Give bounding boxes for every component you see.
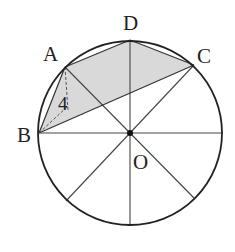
label-o: O bbox=[133, 150, 148, 174]
center-point-o bbox=[127, 130, 133, 136]
label-d: D bbox=[123, 11, 138, 35]
diagram-canvas: A B C D O 4 bbox=[0, 0, 235, 252]
label-b: B bbox=[17, 123, 31, 147]
label-c: C bbox=[197, 44, 211, 68]
length-label-4: 4 bbox=[58, 93, 68, 114]
geometry-diagram: A B C D O 4 bbox=[0, 0, 235, 252]
label-a: A bbox=[43, 42, 59, 66]
